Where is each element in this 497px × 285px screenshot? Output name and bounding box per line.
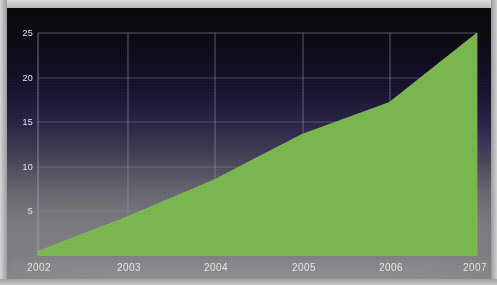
screenshot-root: 25 20 15 10 5 2002 2003 2004 2005 2006 2…: [0, 0, 497, 285]
page-edge-right: [491, 0, 497, 285]
y-tick-label-10: 10: [22, 162, 33, 172]
y-tick-label-5: 5: [28, 206, 33, 216]
page-edge-top: [0, 0, 497, 8]
area-chart: 25 20 15 10 5 2002 2003 2004 2005 2006 2…: [7, 8, 491, 279]
x-tick-label-2004: 2004: [204, 262, 228, 273]
y-axis-tick-labels: 25 20 15 10 5: [22, 28, 33, 216]
x-tick-label-2002: 2002: [27, 262, 51, 273]
page-edge-bottom: [0, 279, 497, 285]
y-tick-label-20: 20: [22, 73, 33, 83]
x-tick-label-2005: 2005: [292, 262, 316, 273]
page-edge-left: [0, 0, 7, 285]
y-tick-label-15: 15: [22, 117, 33, 127]
x-tick-label-2006: 2006: [379, 262, 403, 273]
x-tick-label-2007: 2007: [463, 262, 487, 273]
x-axis-tick-labels: 2002 2003 2004 2005 2006 2007: [27, 262, 487, 273]
y-tick-label-25: 25: [22, 28, 33, 38]
area-series-fill: [38, 33, 477, 256]
x-tick-label-2003: 2003: [117, 262, 141, 273]
chart-panel: 25 20 15 10 5 2002 2003 2004 2005 2006 2…: [7, 8, 491, 279]
